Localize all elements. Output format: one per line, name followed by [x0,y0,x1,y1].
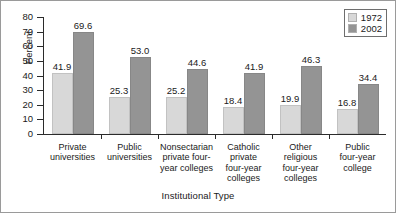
bar-group: 25.244.6 [158,17,215,134]
bar-1972-1 [109,97,130,134]
legend-swatch-1972 [348,13,357,22]
bar-2002-3 [244,73,265,134]
legend-item-1972: 1972 [348,12,382,23]
bar-1972-5 [337,109,358,134]
y-tick-label-0: 0 [9,129,33,138]
x-tick [329,135,330,139]
y-tick-50 [37,61,43,62]
plot-area: 41.969.625.353.025.244.618.441.919.946.3… [44,17,386,134]
bar-2002-2 [187,69,208,134]
legend-label: 1972 [361,13,382,23]
category-label-line: four-year [323,152,392,162]
x-tick [215,135,216,139]
x-axis-title: Institutional Type [1,190,395,201]
y-tick-label-30: 30 [9,85,33,94]
y-tick-30 [37,90,43,91]
y-tick-10 [37,119,43,120]
bar-1972-3 [223,107,244,134]
bar-2002-1 [130,57,151,135]
y-tick-20 [37,105,43,106]
bar-value-label: 41.9 [239,62,270,72]
y-tick-label-70: 70 [9,27,33,36]
category-label-line: colleges [266,173,335,183]
y-tick-label-50: 50 [9,56,33,65]
bar-2002-4 [301,66,322,134]
y-tick-0 [37,134,43,135]
bar-1972-0 [52,73,73,134]
chart-legend: 19722002 [344,9,387,37]
bar-group: 19.946.3 [272,17,329,134]
legend-label: 2002 [361,24,382,34]
category-label-line: Public [323,142,392,152]
bar-1972-4 [280,105,301,134]
y-tick-80 [37,17,43,18]
bar-group: 41.969.6 [44,17,101,134]
bar-value-label: 53.0 [125,46,156,56]
y-tick-40 [37,76,43,77]
x-tick [272,135,273,139]
y-tick-label-60: 60 [9,41,33,50]
bar-group: 18.441.9 [215,17,272,134]
x-tick [158,135,159,139]
y-tick-label-80: 80 [9,12,33,21]
bar-1972-2 [166,97,187,134]
bar-value-label: 46.3 [296,55,327,65]
bar-value-label: 44.6 [182,58,213,68]
y-tick-70 [37,32,43,33]
y-tick-label-40: 40 [9,71,33,80]
bar-group: 25.353.0 [101,17,158,134]
bar-2002-5 [358,84,379,134]
legend-item-2002: 2002 [348,23,382,34]
legend-swatch-2002 [348,24,357,33]
bar-value-label: 34.4 [353,73,384,83]
bar-value-label: 69.6 [68,21,99,31]
category-label: Publicfour-yearcollege [323,142,392,173]
category-label-line: college [323,163,392,173]
bar-2002-0 [73,32,94,134]
y-tick-60 [37,46,43,47]
x-tick [101,135,102,139]
y-tick-label-10: 10 [9,114,33,123]
bar-chart: Percent 80706050403020100 41.969.625.353… [0,0,396,213]
y-tick-label-20: 20 [9,100,33,109]
